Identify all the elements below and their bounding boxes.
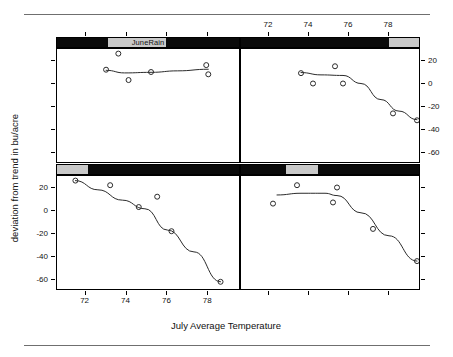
y-tick-left: [51, 210, 55, 211]
x-tick-label-top: 76: [344, 20, 353, 29]
y-tick-right: [421, 129, 425, 130]
data-point: [333, 64, 338, 69]
data-point: [371, 226, 376, 231]
x-tick-bottom: [388, 291, 389, 295]
x-tick-top: [348, 32, 349, 36]
data-point: [299, 71, 304, 76]
y-tick-label-left: -40: [36, 251, 48, 260]
data-point: [271, 201, 276, 206]
loess-smooth-line: [106, 69, 208, 73]
y-tick-right: [421, 83, 425, 84]
x-tick-top: [388, 32, 389, 36]
y-tick-label-right: 20: [428, 55, 437, 64]
y-tick-label-right: -20: [428, 101, 440, 110]
data-point: [331, 200, 336, 205]
y-tick-label-right: 0: [428, 78, 432, 87]
plot-panel-top-left: [56, 48, 240, 163]
data-point: [116, 51, 121, 56]
data-point: [391, 111, 396, 116]
data-point: [126, 78, 131, 83]
y-axis-title: deviation from trend in bu/acre: [9, 114, 20, 242]
bottom-horizontal-rule: [24, 345, 430, 346]
top-horizontal-rule: [24, 14, 430, 15]
loess-smooth-line: [277, 193, 417, 261]
data-point: [341, 81, 346, 86]
data-point: [155, 194, 160, 199]
y-tick-label-left: -20: [36, 228, 48, 237]
x-tick-label-top: 74: [304, 20, 313, 29]
coplot-figure: JuneRainJuneRainJuneRainJuneRain 7274767…: [0, 0, 453, 357]
plot-panel-bottom-left: [56, 175, 240, 290]
y-tick-left: [51, 279, 55, 280]
strip-shade-interval: [286, 165, 318, 174]
y-tick-label-left: -60: [36, 274, 48, 283]
y-tick-label-right: -40: [428, 124, 440, 133]
x-axis-title: July Average Temperature: [171, 320, 281, 331]
x-tick-top: [126, 32, 127, 36]
y-tick-left: [51, 187, 55, 188]
loess-smooth-line: [75, 181, 220, 282]
data-point: [108, 183, 113, 188]
data-point: [104, 67, 109, 72]
x-tick-top: [85, 32, 86, 36]
strip-shade-interval: [389, 38, 419, 47]
x-tick-bottom: [85, 291, 86, 295]
panel-canvas-bottom-left: [57, 176, 240, 290]
plot-panel-top-right: [240, 48, 420, 163]
panel-strip-bottom-right: JuneRain: [240, 164, 420, 175]
y-tick-left-unlabeled: [51, 152, 55, 153]
y-tick-label-left: 0: [44, 205, 48, 214]
y-tick-left: [51, 233, 55, 234]
y-tick-left-unlabeled: [51, 83, 55, 84]
data-point: [311, 81, 316, 86]
panel-canvas-bottom-right: [241, 176, 420, 290]
plot-panel-bottom-right: [240, 175, 420, 290]
y-tick-right-unlabeled: [421, 256, 425, 257]
x-tick-label-bottom: 72: [80, 296, 89, 305]
x-tick-bottom: [268, 291, 269, 295]
y-tick-left-unlabeled: [51, 129, 55, 130]
y-tick-right: [421, 60, 425, 61]
y-tick-left-unlabeled: [51, 106, 55, 107]
panel-strip-bottom-left: JuneRain: [56, 164, 240, 175]
loess-smooth-line: [301, 73, 417, 120]
y-tick-right: [421, 106, 425, 107]
x-tick-label-bottom: 76: [162, 296, 171, 305]
x-tick-top: [166, 32, 167, 36]
y-tick-label-right: -60: [428, 147, 440, 156]
x-tick-top: [308, 32, 309, 36]
x-tick-bottom: [126, 291, 127, 295]
data-point: [206, 72, 211, 77]
x-tick-bottom: [207, 291, 208, 295]
x-tick-bottom: [308, 291, 309, 295]
strip-shade-interval: [57, 165, 88, 174]
strip-label: JuneRain: [57, 38, 239, 47]
y-tick-right-unlabeled: [421, 233, 425, 234]
y-tick-right-unlabeled: [421, 210, 425, 211]
y-tick-right-unlabeled: [421, 279, 425, 280]
x-tick-bottom: [348, 291, 349, 295]
y-tick-right-unlabeled: [421, 187, 425, 188]
panel-strip-top-right: JuneRain: [240, 37, 420, 48]
x-tick-label-bottom: 74: [121, 296, 130, 305]
y-tick-left-unlabeled: [51, 60, 55, 61]
data-point: [204, 63, 209, 68]
x-tick-top: [207, 32, 208, 36]
x-tick-label-top: 78: [384, 20, 393, 29]
x-tick-label-bottom: 78: [203, 296, 212, 305]
y-tick-right: [421, 152, 425, 153]
x-tick-bottom: [166, 291, 167, 295]
strip-label-text: JuneRain: [130, 38, 167, 47]
x-tick-top: [268, 32, 269, 36]
data-point: [415, 118, 420, 123]
y-tick-left: [51, 256, 55, 257]
panel-canvas-top-right: [241, 49, 420, 163]
data-point: [335, 185, 340, 190]
panel-canvas-top-left: [57, 49, 240, 163]
data-point: [295, 183, 300, 188]
panel-strip-top-left: JuneRain: [56, 37, 240, 48]
y-tick-label-left: 20: [39, 182, 48, 191]
x-tick-label-top: 72: [264, 20, 273, 29]
